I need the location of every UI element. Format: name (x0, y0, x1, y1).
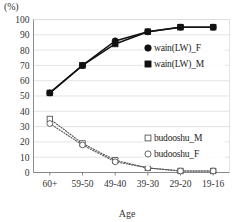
data-point-marker (178, 24, 184, 30)
x-axis-tick-label: 59-50 (71, 179, 93, 189)
y-axis-tick-label: 20 (20, 137, 30, 147)
y-axis-tick-label: 80 (20, 46, 30, 56)
legend-marker-filled-circle (145, 45, 152, 52)
legend-marker-open-square (145, 135, 151, 141)
legend-item-label: wain(LW)_M (154, 59, 205, 70)
y-axis-tick-label: 30 (20, 122, 30, 132)
data-point-marker (210, 24, 216, 30)
chart-container: (%) 0102030405060708090100 60+59-5049-40… (0, 0, 236, 222)
y-axis-tick-label: 10 (20, 153, 30, 163)
legend-item-label: budooshu_M (154, 133, 203, 143)
legend-marker-open-circle (145, 151, 151, 157)
legend-marker-filled-square (145, 61, 151, 67)
y-axis-tick-label: 60 (20, 76, 30, 86)
y-axis-tick-label: 70 (20, 61, 30, 71)
line-chart-plot: 0102030405060708090100 60+59-5049-4039-3… (0, 0, 236, 222)
data-point-marker (112, 159, 118, 165)
y-axis-tick-labels: 0102030405060708090100 (15, 15, 30, 178)
chart-legend: wain(LW)_Fwain(LW)_Mbudooshu_Mbudooshu_F (143, 40, 225, 166)
data-point-marker (210, 168, 216, 174)
data-point-marker (112, 41, 118, 47)
y-axis-tick-label: 0 (25, 168, 30, 178)
data-point-marker (80, 63, 86, 69)
y-axis-tick-label: 50 (20, 91, 30, 101)
data-point-marker (145, 29, 151, 35)
x-axis-tick-label: 19-16 (202, 179, 224, 189)
x-axis-tick-label: 60+ (42, 179, 57, 189)
data-point-marker (80, 142, 86, 148)
x-axis-tick-label: 49-40 (104, 179, 126, 189)
legend-item-label: wain(LW)_F (154, 43, 201, 54)
x-axis-tick-labels: 60+59-5049-4039-3029-2019-16 (42, 179, 224, 189)
data-point-marker (178, 168, 184, 174)
x-axis-tick-label: 29-20 (169, 179, 191, 189)
x-axis-tick-label: 39-30 (137, 179, 159, 189)
y-axis-tick-label: 40 (20, 107, 30, 117)
data-point-marker (47, 90, 53, 96)
y-axis-tick-label: 90 (20, 30, 30, 40)
x-axis-title: Age (119, 208, 136, 219)
y-axis-tick-label: 100 (15, 15, 30, 25)
legend-item-label: budooshu_F (154, 149, 199, 159)
data-point-marker (47, 121, 53, 127)
